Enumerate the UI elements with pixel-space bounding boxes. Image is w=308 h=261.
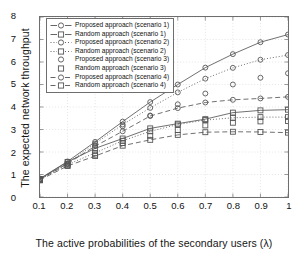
y-tick-label: 7 [0,33,16,44]
legend-item[interactable]: Random approach (scenario 4) [50,81,169,90]
legend-item[interactable]: Proposed approach (scenario 4) [50,73,169,82]
series-7 [40,94,288,181]
x-tick-label: 0.7 [191,200,221,211]
data-point-circle [286,71,288,76]
series-line [40,132,288,180]
legend-sample-square-icon [50,64,72,73]
series-2 [40,107,288,181]
legend-label: Random approach (scenario 3) [75,64,166,73]
y-tick-label: 5 [0,78,16,89]
x-tick-label: 1 [274,200,304,211]
legend-label: Proposed approach (scenario 4) [75,73,169,82]
legend-label: Proposed approach (scenario 1) [75,21,169,30]
y-tick-label: 4 [0,101,16,112]
legend-sample-circle-icon [50,38,72,47]
x-tick-label: 0.2 [52,200,82,211]
legend-marker-square-icon [58,49,63,54]
legend-marker-square-icon [58,31,63,36]
legend-label: Proposed approach (scenario 3) [75,55,169,64]
series-4 [40,115,288,182]
x-tick-label: 0.6 [163,200,193,211]
x-tick-label: 0.9 [246,200,276,211]
legend-label: Random approach (scenario 4) [75,81,166,90]
y-axis-title: The expected network throughput [19,13,31,203]
data-point-circle [175,90,180,95]
x-tick-label: 0.5 [135,200,165,211]
legend-sample-circle-icon [50,73,72,82]
legend-label: Random approach (scenario 1) [75,30,166,39]
y-tick-label: 6 [0,56,16,67]
legend-sample-square-icon [50,30,72,39]
y-tick-label: 8 [0,10,16,21]
legend-marker-circle-icon [58,74,63,79]
legend-sample-square-icon [50,47,72,56]
figure: The expected network throughput The acti… [0,0,308,261]
legend-marker-circle-icon [58,23,63,28]
series-8 [40,129,288,182]
legend-sample-circle-icon [50,55,72,64]
legend-marker-square-icon [58,66,63,71]
x-tick-label: 0.3 [80,200,110,211]
y-tick-label: 2 [0,147,16,158]
legend-item[interactable]: Proposed approach (scenario 1) [50,21,169,30]
legend-marker-square-icon [58,83,63,88]
legend: Proposed approach (scenario 1)Random app… [46,18,174,93]
x-axis-title: The active probabilities of the secondar… [0,237,308,249]
legend-item[interactable]: Random approach (scenario 2) [50,47,169,56]
legend-label: Random approach (scenario 2) [75,47,166,56]
y-tick-label: 0 [0,192,16,203]
legend-item[interactable]: Random approach (scenario 3) [50,64,169,73]
y-tick-label: 3 [0,124,16,135]
x-tick-label: 0.8 [218,200,248,211]
series-line [40,117,288,179]
data-point-circle [258,57,263,62]
x-tick-label: 0.1 [24,200,54,211]
x-tick-label: 0.4 [107,200,137,211]
y-tick-label: 1 [0,169,16,180]
legend-marker-circle-icon [58,40,63,45]
legend-item[interactable]: Proposed approach (scenario 2) [50,38,169,47]
legend-sample-square-icon [50,81,72,90]
legend-sample-circle-icon [50,21,72,30]
legend-item[interactable]: Random approach (scenario 1) [50,30,169,39]
legend-item[interactable]: Proposed approach (scenario 3) [50,55,169,64]
series-line [40,110,288,179]
series-line [40,97,288,179]
legend-label: Proposed approach (scenario 2) [75,38,169,47]
legend-marker-circle-icon [58,57,63,62]
